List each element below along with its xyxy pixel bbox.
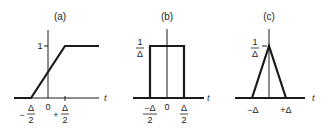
ramp-curve	[14, 46, 99, 98]
panel-b-title: (b)	[161, 11, 173, 22]
panel-c-title: (c)	[263, 11, 275, 22]
x-right-label: +Δ	[280, 105, 291, 115]
origin-label: 0	[45, 102, 50, 112]
axis-label-t: t	[207, 92, 210, 103]
y-tick-num: 1	[252, 37, 257, 47]
x-right-sign: +	[53, 110, 58, 120]
x-left-sign: −	[19, 110, 24, 120]
x-right-num: Δ	[181, 103, 187, 113]
panel-a: (a) 1 t 0 − Δ 2 + Δ 2	[14, 11, 107, 125]
axis-label-t: t	[104, 92, 107, 103]
x-left-num: −Δ	[144, 103, 155, 113]
panel-b: (b) 1 Δ t 0 −Δ 2 Δ 2	[133, 11, 210, 125]
x-right-num: Δ	[62, 103, 68, 113]
y-tick-num: 1	[137, 37, 142, 47]
panel-a-title: (a)	[54, 11, 66, 22]
x-left-num: Δ	[28, 103, 34, 113]
y-tick-den: Δ	[137, 49, 143, 59]
diagram-canvas: (a) 1 t 0 − Δ 2 + Δ 2 (b) 1 Δ t 0 −Δ 2 Δ…	[0, 0, 331, 134]
x-left-label: −Δ	[247, 105, 258, 115]
x-right-den: 2	[62, 115, 67, 125]
axis-label-t: t	[312, 92, 315, 103]
panel-c: (c) 1 Δ t −Δ +Δ	[235, 11, 315, 115]
y-tick-label: 1	[37, 41, 42, 51]
x-left-den: 2	[147, 115, 152, 125]
x-right-den: 2	[181, 115, 186, 125]
origin-label: 0	[164, 102, 169, 112]
x-left-den: 2	[28, 115, 33, 125]
y-tick-den: Δ	[252, 49, 258, 59]
